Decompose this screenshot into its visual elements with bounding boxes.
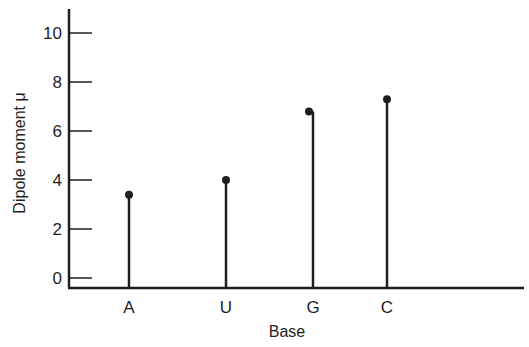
stem-marker bbox=[125, 191, 133, 199]
stem-marker bbox=[222, 176, 230, 184]
stem-chart: 0246810 AUGC Base Dipole moment μ bbox=[0, 0, 529, 347]
x-tick-label-G: G bbox=[306, 298, 319, 317]
y-axis-title: Dipole moment μ bbox=[11, 92, 28, 213]
x-tick-label-C: C bbox=[381, 298, 393, 317]
x-axis-title: Base bbox=[269, 323, 306, 340]
y-ticks: 0246810 bbox=[43, 24, 92, 288]
stem-marker bbox=[383, 95, 391, 103]
stem-U bbox=[222, 176, 230, 288]
y-tick-label: 10 bbox=[43, 24, 62, 43]
data-stems bbox=[125, 95, 391, 288]
axes bbox=[68, 9, 524, 288]
y-tick-label: 4 bbox=[53, 171, 62, 190]
stem-C bbox=[383, 95, 391, 288]
x-tick-label-U: U bbox=[220, 298, 232, 317]
y-tick-label: 2 bbox=[53, 220, 62, 239]
x-tick-labels: AUGC bbox=[123, 298, 393, 317]
x-tick-label-A: A bbox=[123, 298, 135, 317]
stem-G bbox=[305, 107, 313, 288]
stem-A bbox=[125, 191, 133, 288]
y-tick-label: 8 bbox=[53, 73, 62, 92]
stem-marker bbox=[305, 107, 313, 115]
y-tick-label: 6 bbox=[53, 122, 62, 141]
y-tick-label: 0 bbox=[53, 269, 62, 288]
